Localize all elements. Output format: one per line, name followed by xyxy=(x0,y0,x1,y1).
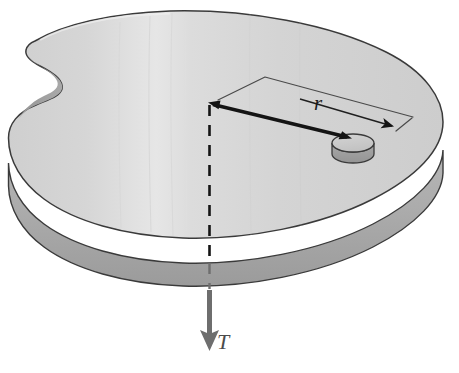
disk-top-surface-group xyxy=(9,11,444,238)
puck-top xyxy=(332,134,374,152)
radius-label: r xyxy=(314,91,322,116)
diagram-svg xyxy=(0,0,459,373)
tension-label: T xyxy=(217,329,229,355)
disk-top-surface xyxy=(9,11,444,238)
figure-canvas: r T xyxy=(0,0,459,373)
puck-group xyxy=(332,134,374,163)
